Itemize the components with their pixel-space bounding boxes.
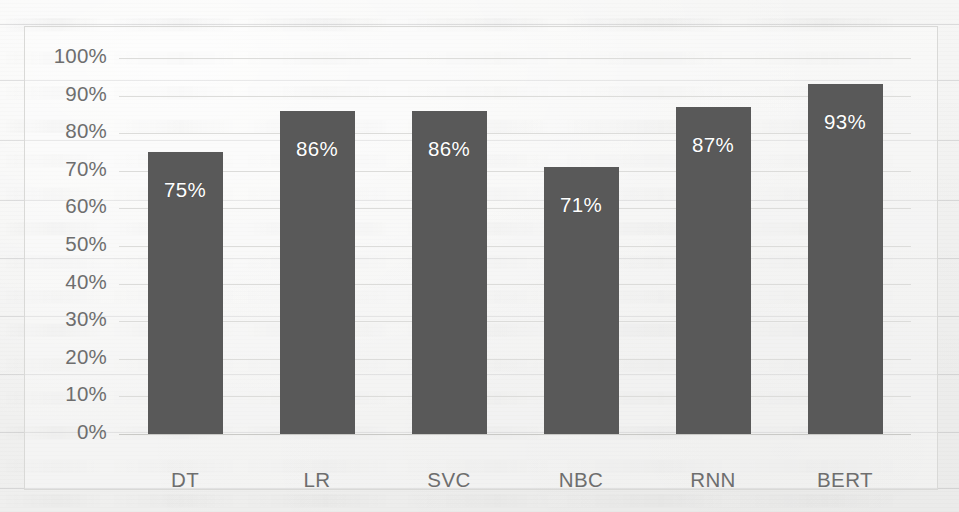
x-axis-tick-label-nbc: NBC [515,468,647,492]
gridline-100 [119,58,911,59]
y-axis-tick-label: 10% [17,382,107,406]
y-axis-tick-label: 60% [17,194,107,218]
gridline-10 [119,396,911,397]
gridline-70 [119,171,911,172]
scan-ruled-line [0,24,959,25]
bar-rnn[interactable]: 87% [676,107,751,434]
plot-area: 75%86%86%71%87%93% [119,58,911,434]
gridline-30 [119,321,911,322]
x-axis-tick-label-svc: SVC [383,468,515,492]
bar-lr[interactable]: 86% [280,111,355,434]
bar-value-label: 71% [544,193,619,217]
y-axis-tick-label: 50% [17,232,107,256]
gridline-50 [119,246,911,247]
bar-value-label: 75% [148,178,223,202]
y-axis-tick-label: 80% [17,119,107,143]
gridline-60 [119,208,911,209]
gridline-40 [119,284,911,285]
y-axis-tick-label: 90% [17,82,107,106]
y-axis-tick-label: 20% [17,345,107,369]
bar-value-label: 87% [676,133,751,157]
y-axis-tick-label: 100% [17,44,107,68]
y-axis-tick-label: 30% [17,307,107,331]
bleedthrough-text-line [0,494,959,507]
y-axis-tick-label: 0% [17,420,107,444]
y-axis: 100%90%80%70%60%50%40%30%20%10%0% [25,58,107,434]
y-axis-tick-label: 40% [17,270,107,294]
gridline-90 [119,96,911,97]
bar-svc[interactable]: 86% [412,111,487,434]
gridline-80 [119,133,911,134]
chart-container: 100%90%80%70%60%50%40%30%20%10%0% 75%86%… [24,26,938,490]
bar-nbc[interactable]: 71% [544,167,619,434]
bar-value-label: 86% [280,137,355,161]
bar-dt[interactable]: 75% [148,152,223,434]
x-axis-tick-label-lr: LR [251,468,383,492]
x-axis-tick-label-bert: BERT [779,468,911,492]
bar-value-label: 86% [412,137,487,161]
gridline-0 [119,434,911,435]
bar-value-label: 93% [808,110,883,134]
gridline-20 [119,359,911,360]
x-axis-tick-label-dt: DT [119,468,251,492]
bar-bert[interactable]: 93% [808,84,883,434]
y-axis-tick-label: 70% [17,157,107,181]
x-axis-tick-label-rnn: RNN [647,468,779,492]
